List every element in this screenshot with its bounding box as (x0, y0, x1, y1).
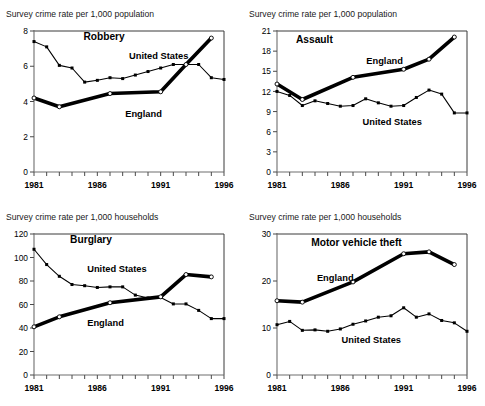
data-point-marker (32, 325, 36, 329)
x-tick-label: 1991 (151, 383, 170, 393)
data-point-marker (147, 70, 150, 73)
data-point-marker (390, 314, 393, 317)
y-tick-label: 100 (14, 253, 28, 263)
data-point-marker (159, 295, 163, 299)
data-point-marker (300, 97, 304, 101)
data-point-marker (326, 102, 329, 105)
data-point-marker (453, 111, 456, 114)
x-tick-label: 1991 (151, 180, 170, 190)
y-tick-label: 30 (262, 229, 272, 239)
series-line-england (34, 38, 211, 107)
data-point-marker (377, 101, 380, 104)
data-point-marker (440, 319, 443, 322)
series-label-united-states: United States (363, 117, 422, 127)
data-point-marker (301, 104, 304, 107)
y-tick-label: 0 (266, 167, 271, 177)
data-point-marker (440, 93, 443, 96)
data-point-marker (121, 285, 124, 288)
data-point-marker (453, 321, 456, 324)
axis-caption-robbery: Survey crime rate per 1,000 population (6, 9, 154, 19)
y-tick-label: 0 (23, 370, 28, 380)
data-point-marker (96, 79, 99, 82)
x-tick-label: 1986 (331, 383, 350, 393)
chart-panel-robbery: Survey crime rate per 1,000 population02… (0, 0, 243, 203)
data-point-marker (33, 248, 36, 251)
y-tick-label: 20 (262, 276, 272, 286)
charts-grid: Survey crime rate per 1,000 population02… (0, 0, 485, 406)
data-point-marker (377, 316, 380, 319)
data-point-marker (58, 275, 61, 278)
data-point-marker (276, 90, 279, 93)
data-point-marker (364, 97, 367, 100)
data-point-marker (109, 76, 112, 79)
data-point-marker (427, 250, 431, 254)
y-tick-label: 4 (23, 97, 28, 107)
series-line-united-states (277, 308, 467, 331)
data-point-marker (172, 302, 175, 305)
data-point-marker (276, 323, 279, 326)
data-point-marker (159, 90, 163, 94)
data-point-marker (58, 64, 61, 67)
data-point-marker (339, 105, 342, 108)
data-point-marker (223, 317, 226, 320)
y-tick-label: 18 (262, 46, 272, 56)
x-tick-label: 1981 (267, 383, 286, 393)
data-point-marker (339, 327, 342, 330)
y-tick-label: 60 (19, 300, 29, 310)
panel-title-motor-vehicle-theft: Motor vehicle theft (311, 237, 402, 248)
data-point-marker (452, 35, 456, 39)
data-point-marker (402, 104, 405, 107)
axis-caption-assault: Survey crime rate per 1,000 population (249, 9, 397, 19)
data-point-marker (466, 330, 469, 333)
y-tick-label: 15 (262, 66, 272, 76)
data-point-marker (314, 99, 317, 102)
data-point-marker (159, 67, 162, 70)
data-point-marker (71, 283, 74, 286)
y-tick-label: 80 (19, 276, 29, 286)
y-tick-label: 3 (266, 147, 271, 157)
data-point-marker (71, 67, 74, 70)
y-tick-label: 20 (19, 347, 29, 357)
series-line-united-states (34, 42, 224, 83)
chart-panel-motor-vehicle-theft: Survey crime rate per 1,000 households01… (243, 203, 485, 406)
series-label-england: England (317, 273, 354, 283)
y-tick-label: 40 (19, 323, 29, 333)
data-point-marker (223, 78, 226, 81)
data-point-marker (275, 82, 279, 86)
series-label-england: England (366, 56, 403, 66)
data-point-marker (390, 105, 393, 108)
data-point-marker (209, 275, 213, 279)
chart-svg-robbery: Survey crime rate per 1,000 population02… (0, 0, 243, 203)
data-point-marker (301, 329, 304, 332)
data-point-marker (83, 81, 86, 84)
x-tick-label: 1991 (394, 383, 413, 393)
data-point-marker (134, 74, 137, 77)
series-line-united-states (277, 90, 467, 113)
x-tick-label: 1981 (24, 180, 43, 190)
data-point-marker (108, 92, 112, 96)
x-tick-label: 1986 (88, 180, 107, 190)
data-point-marker (134, 294, 137, 297)
chart-panel-assault: Survey crime rate per 1,000 population03… (243, 0, 485, 203)
panel-title-robbery: Robbery (83, 31, 125, 42)
data-point-marker (402, 306, 405, 309)
data-point-marker (288, 320, 291, 323)
y-tick-label: 0 (266, 370, 271, 380)
data-point-marker (402, 67, 406, 71)
data-point-marker (402, 252, 406, 256)
axis-caption-motor-vehicle-theft: Survey crime rate per 1,000 households (249, 212, 401, 222)
data-point-marker (352, 104, 355, 107)
x-tick-label: 1986 (331, 180, 350, 190)
chart-panel-burglary: Survey crime rate per 1,000 households02… (0, 203, 243, 406)
data-point-marker (352, 323, 355, 326)
data-point-marker (452, 263, 456, 267)
x-tick-label: 1991 (394, 180, 413, 190)
data-point-marker (184, 62, 188, 66)
data-point-marker (210, 317, 213, 320)
series-label-united-states: United States (342, 335, 401, 345)
x-tick-label: 1981 (24, 383, 43, 393)
chart-svg-assault: Survey crime rate per 1,000 population03… (243, 0, 485, 203)
axis-caption-burglary: Survey crime rate per 1,000 households (6, 212, 158, 222)
series-label-united-states: United States (129, 51, 188, 61)
data-point-marker (57, 315, 61, 319)
